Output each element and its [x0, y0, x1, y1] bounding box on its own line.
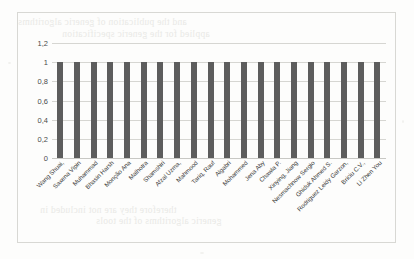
bar [57, 62, 63, 158]
y-axis-tick-label: 0,8 [38, 77, 48, 86]
scan-speck [8, 62, 11, 64]
y-axis-tick-label: 0,6 [38, 96, 48, 105]
y-axis-tick-label: 1 [44, 58, 48, 67]
bar [324, 62, 330, 158]
plot-area [52, 43, 386, 158]
bar [191, 62, 197, 158]
bar [374, 62, 380, 158]
x-axis-labels: Wang Shuai,Saxena VipinMuhammadBhasin Ha… [52, 159, 386, 239]
scanned-page: and the publication of generic algorithm… [0, 0, 414, 259]
bar [124, 62, 130, 158]
bar [208, 62, 214, 158]
bar [258, 62, 264, 158]
bar [291, 62, 297, 158]
bar [174, 62, 180, 158]
bar [241, 62, 247, 158]
bar [91, 62, 97, 158]
y-axis-tick-label: 1,2 [38, 39, 48, 48]
bar [74, 62, 80, 158]
y-axis-tick-label: 0 [44, 154, 48, 163]
bar [358, 62, 364, 158]
bar [341, 62, 347, 158]
chart-container: 00,20,40,60,811,2 Wang Shuai,Saxena Vipi… [17, 12, 396, 243]
bar [224, 62, 230, 158]
scan-speck [200, 252, 204, 254]
bar [107, 62, 113, 158]
y-axis-tick-label: 0,4 [38, 115, 48, 124]
scan-speck [402, 120, 404, 123]
y-axis-tick-label: 0,2 [38, 134, 48, 143]
bar [141, 62, 147, 158]
bar [274, 62, 280, 158]
bar [308, 62, 314, 158]
bar-series [52, 43, 386, 158]
y-axis: 00,20,40,60,811,2 [18, 43, 48, 158]
bar [157, 62, 163, 158]
